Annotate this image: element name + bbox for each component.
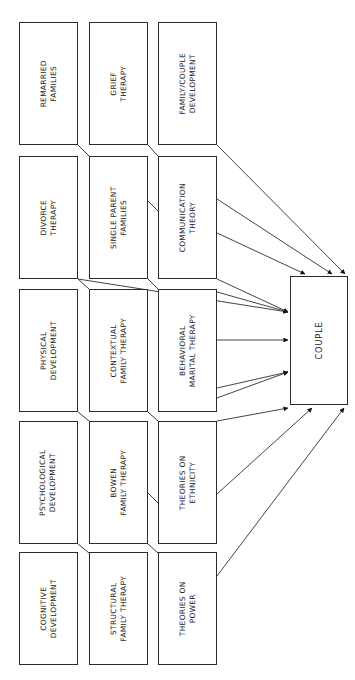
node-label-theories-on-ethnicity: THEORIES ONETHNICITY — [178, 455, 198, 510]
link-physical-to-psychological — [78, 412, 89, 421]
node-label-cognitive-development: COGNITIVEDEVELOPMENT — [39, 579, 59, 638]
node-bowen-family-therapy[interactable]: BOWENFAMILY THERAPY — [89, 421, 148, 544]
node-label-line: STRUCTURAL — [109, 576, 119, 642]
node-label-line: BEHAVIORAL — [178, 314, 188, 387]
link-bowen-to-theories-ethnicity — [148, 493, 158, 503]
node-label-line: REMARRIED — [39, 60, 49, 107]
node-label-line: COMMUNICATION — [178, 183, 188, 252]
arrow-theories-on-ethnicity-to-couple-b — [217, 408, 312, 494]
node-single-parent-families[interactable]: SINGLE PARENTFAMILIES — [89, 156, 148, 279]
node-contextual-family-therapy[interactable]: CONTEXTUALFAMILY THERAPY — [89, 289, 148, 412]
node-label-behavioral-marital-therapy: BEHAVIORALMARITAL THERAPY — [178, 314, 198, 387]
node-label-theories-on-power: THEORIES ONPOWER — [178, 581, 198, 636]
link-single-parent-to-communication — [148, 201, 158, 211]
node-label-line: FAMILY THERAPY — [119, 576, 129, 642]
node-label-line: BOWEN — [109, 450, 119, 516]
link-grief-to-communication — [148, 145, 158, 156]
node-label-contextual-family-therapy: CONTEXTUALFAMILY THERAPY — [109, 318, 129, 384]
diagram-canvas: REMARRIEDFAMILIESGRIEFTHERAPYFAMILY/COUP… — [0, 0, 355, 680]
arrow-behavioral-to-couple-lower — [217, 372, 288, 398]
node-label-communication-theory: COMMUNICATIONTHEORY — [178, 183, 198, 252]
node-label-bowen-family-therapy: BOWENFAMILY THERAPY — [109, 450, 129, 516]
node-cognitive-development[interactable]: COGNITIVEDEVELOPMENT — [19, 552, 78, 665]
link-remarried-to-single-parent — [78, 145, 89, 156]
arrow-theories-on-ethnicity-to-couple-a — [217, 408, 288, 421]
node-family-couple-development[interactable]: FAMILY/COUPLEDEVELOPMENT — [158, 22, 217, 145]
node-label-line: COGNITIVE — [39, 579, 49, 638]
node-label-line: SINGLE PARENT — [109, 186, 119, 249]
node-communication-theory[interactable]: COMMUNICATIONTHEORY — [158, 156, 217, 279]
node-label-family-couple-development: FAMILY/COUPLEDEVELOPMENT — [178, 53, 198, 115]
node-label-divorce-therapy: DIVORCETHERAPY — [39, 200, 59, 236]
node-theories-on-ethnicity[interactable]: THEORIES ONETHNICITY — [158, 421, 217, 544]
node-label-line: THEORIES ON — [178, 455, 188, 510]
node-divorce-therapy[interactable]: DIVORCETHERAPY — [19, 156, 78, 279]
arrow-behavioral-marital-therapy-to-couple-c — [217, 372, 288, 388]
node-label-line: FAMILIES — [48, 60, 58, 107]
node-theories-on-power[interactable]: THEORIES ONPOWER — [158, 552, 217, 665]
node-label-couple: COUPLE — [314, 321, 325, 359]
node-label-line: MARITAL THERAPY — [188, 314, 198, 387]
link-psychological-to-cognitive — [78, 544, 89, 553]
node-label-structural-family-therapy: STRUCTURALFAMILY THERAPY — [109, 576, 129, 642]
node-label-line: GRIEF — [109, 66, 119, 102]
node-label-line: DIVORCE — [39, 200, 49, 236]
node-label-physical-development: PHYSICALDEVELOPMENT — [39, 321, 59, 380]
node-label-line: ETHNICITY — [188, 455, 198, 510]
link-bowen-to-structural — [148, 544, 158, 553]
node-couple[interactable]: COUPLE — [290, 276, 348, 405]
node-behavioral-marital-therapy[interactable]: BEHAVIORALMARITAL THERAPY — [158, 289, 217, 412]
node-label-single-parent-families: SINGLE PARENTFAMILIES — [109, 186, 129, 249]
node-structural-family-therapy[interactable]: STRUCTURALFAMILY THERAPY — [89, 552, 148, 665]
node-label-line: FAMILY/COUPLE — [178, 53, 188, 115]
node-label-line: THERAPY — [49, 200, 59, 236]
node-remarried-families[interactable]: REMARRIEDFAMILIES — [19, 22, 78, 145]
node-label-line: COUPLE — [314, 321, 325, 359]
node-psychological-development[interactable]: PSYCHOLOGICALDEVELOPMENT — [19, 421, 78, 544]
node-label-line: DEVELOPMENT — [188, 53, 198, 115]
node-grief-therapy[interactable]: GRIEFTHERAPY — [89, 22, 148, 145]
node-label-line: DEVELOPMENT — [49, 579, 59, 638]
node-label-line: FAMILY THERAPY — [119, 450, 129, 516]
node-label-line: POWER — [188, 581, 198, 636]
arrow-theories-on-power-to-couple — [217, 408, 344, 576]
node-label-line: CONTEXTUAL — [109, 318, 119, 384]
node-label-line: THERAPY — [119, 66, 129, 102]
arrow-communication-theory-to-couple-b — [217, 233, 305, 274]
node-physical-development[interactable]: PHYSICALDEVELOPMENT — [19, 289, 78, 412]
node-label-line: DEVELOPMENT — [49, 449, 59, 515]
node-label-line: THEORY — [188, 183, 198, 252]
arrow-communication-theory-to-couple-a — [217, 199, 332, 274]
node-label-remarried-families: REMARRIEDFAMILIES — [39, 60, 59, 107]
node-label-grief-therapy: GRIEFTHERAPY — [109, 66, 129, 102]
node-label-line: FAMILIES — [119, 186, 129, 249]
arrow-communication-theory-to-couple-c — [217, 279, 288, 312]
node-label-line: THEORIES ON — [178, 581, 188, 636]
link-contextual-to-bowen — [148, 412, 158, 421]
node-label-line: DEVELOPMENT — [49, 321, 59, 380]
arrow-family-couple-development-to-couple — [217, 145, 345, 274]
node-label-psychological-development: PSYCHOLOGICALDEVELOPMENT — [39, 449, 59, 515]
node-label-line: PHYSICAL — [39, 321, 49, 380]
link-single-parent-to-behavioral — [148, 279, 158, 289]
node-label-line: PSYCHOLOGICAL — [39, 449, 49, 515]
node-label-line: FAMILY THERAPY — [119, 318, 129, 384]
